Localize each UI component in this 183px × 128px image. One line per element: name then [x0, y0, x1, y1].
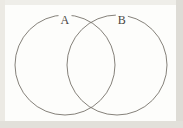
set-label-b: B [116, 14, 128, 26]
venn-circle-b [67, 15, 167, 115]
set-label-a: A [59, 14, 72, 26]
venn-diagram-figure: A B [0, 0, 183, 128]
venn-circle-a [15, 15, 115, 115]
venn-svg-canvas [0, 0, 183, 128]
